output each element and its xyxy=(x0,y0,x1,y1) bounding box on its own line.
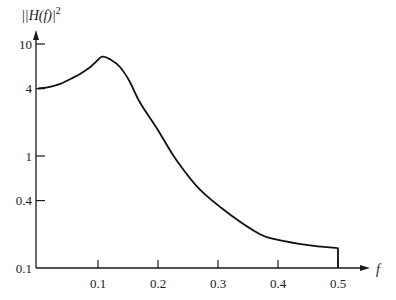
x-ticks: 0.10.20.30.40.5 xyxy=(90,260,346,291)
y-tick-label: 0.1 xyxy=(16,261,32,276)
x-axis-label: f xyxy=(376,262,382,277)
series-group xyxy=(38,57,338,268)
y-ticks: 0.10.41410 xyxy=(16,37,45,276)
axes xyxy=(33,30,370,271)
x-tick-label: 0.3 xyxy=(210,276,226,291)
x-tick-label: 0.2 xyxy=(150,276,166,291)
x-tick-label: 0.4 xyxy=(270,276,287,291)
x-tick-label: 0.1 xyxy=(90,276,106,291)
y-tick-label: 4 xyxy=(26,81,33,96)
y-tick-label: 0.4 xyxy=(16,193,33,208)
y-axis-label-superscript: 2 xyxy=(56,5,61,16)
chart: 0.10.20.30.40.5 0.10.41410 ||H(f)|2 f xyxy=(0,0,396,300)
series-line xyxy=(38,57,338,268)
y-axis-arrow-icon xyxy=(33,30,39,40)
y-tick-label: 10 xyxy=(19,37,32,52)
y-axis-label: ||H(f)|2 xyxy=(22,5,61,24)
y-axis-label-text: |H(f)| xyxy=(25,8,56,24)
x-axis-arrow-icon xyxy=(360,265,370,271)
x-tick-label: 0.5 xyxy=(330,276,346,291)
y-tick-label: 1 xyxy=(26,149,33,164)
